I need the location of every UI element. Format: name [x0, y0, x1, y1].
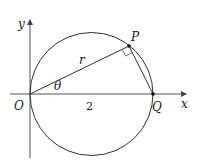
label-length-2: 2: [86, 100, 93, 113]
label-O: O: [14, 99, 24, 113]
polar-circle-diagram: y x O Q P r θ 2: [0, 0, 199, 167]
label-Q: Q: [152, 100, 162, 114]
y-axis-label: y: [17, 17, 25, 31]
point-P: [127, 44, 131, 48]
label-P: P: [130, 30, 140, 44]
label-r: r: [79, 53, 86, 67]
point-Q: [151, 92, 155, 96]
segment-PQ: [129, 46, 153, 94]
x-axis-label: x: [181, 97, 188, 111]
label-theta: θ: [54, 79, 62, 93]
